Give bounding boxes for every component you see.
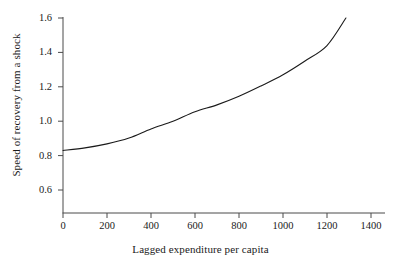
y-tick-label: 1.6 bbox=[22, 13, 52, 24]
data-series-line bbox=[63, 18, 346, 150]
x-tick-label: 1000 bbox=[273, 221, 294, 232]
y-tick-label: 0.8 bbox=[22, 150, 52, 161]
x-tick-label: 1200 bbox=[317, 221, 338, 232]
x-tick-label: 800 bbox=[231, 221, 247, 232]
y-axis-label-wrapper: Speed of recovery from a shock bbox=[8, 0, 24, 210]
y-tick-label: 1.0 bbox=[22, 116, 52, 127]
y-tick-label: 0.6 bbox=[22, 185, 52, 196]
y-tick-label: 1.2 bbox=[22, 82, 52, 93]
x-tick-label: 600 bbox=[187, 221, 203, 232]
y-axis-label: Speed of recovery from a shock bbox=[10, 33, 22, 176]
x-tick-label: 200 bbox=[99, 221, 115, 232]
x-tick-marks bbox=[63, 213, 371, 218]
chart-figure: 1.6 1.4 1.2 1.0 0.8 0.6 0 200 400 600 80… bbox=[0, 0, 401, 263]
x-tick-label: 400 bbox=[143, 221, 159, 232]
y-tick-marks bbox=[58, 18, 63, 190]
x-axis-label: Lagged expenditure per capita bbox=[0, 243, 401, 255]
x-tick-label: 0 bbox=[60, 221, 65, 232]
x-tick-label: 1400 bbox=[361, 221, 382, 232]
y-tick-label: 1.4 bbox=[22, 47, 52, 58]
